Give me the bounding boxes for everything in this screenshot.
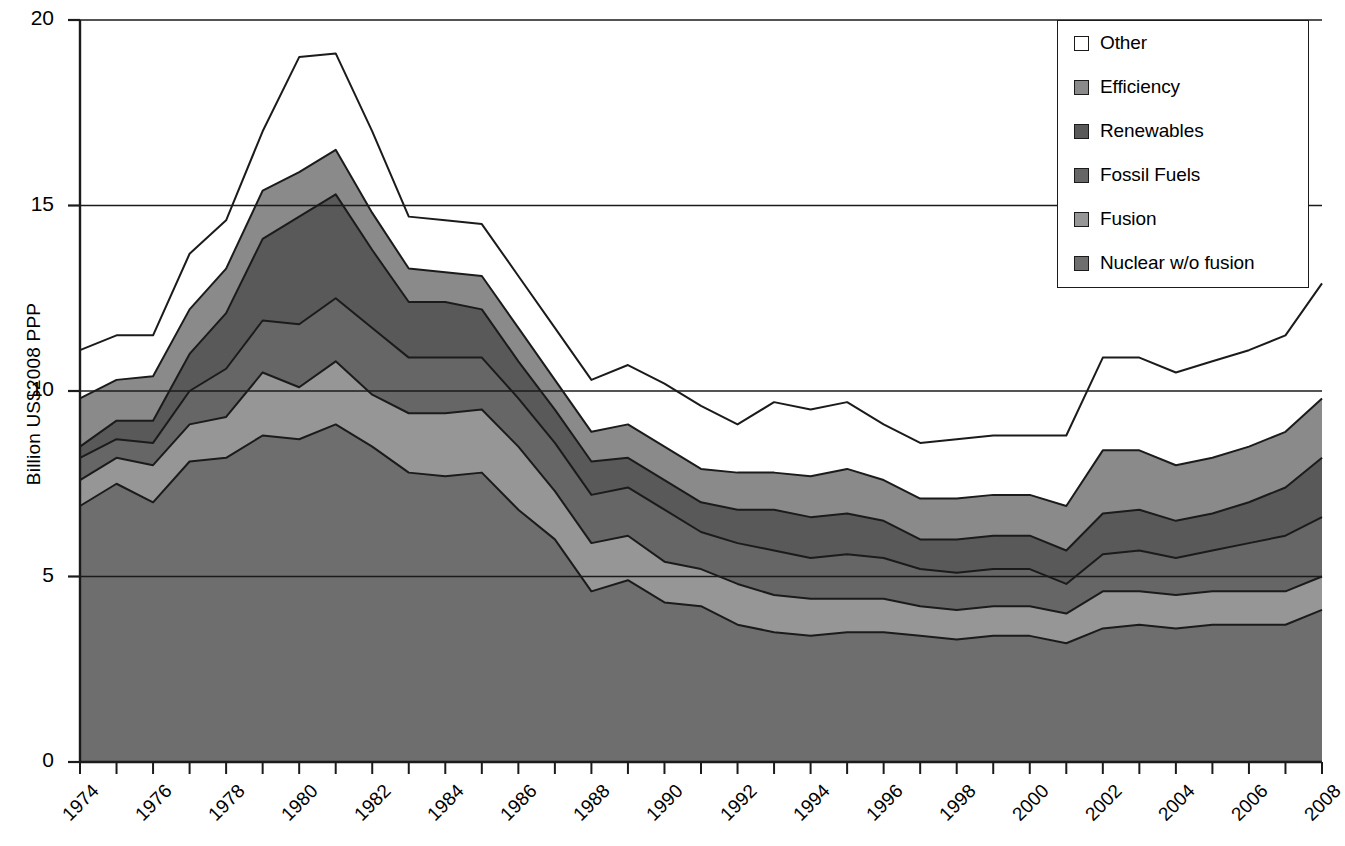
legend-swatch-icon bbox=[1074, 212, 1089, 227]
y-tick-label: 20 bbox=[8, 6, 54, 30]
legend-label: Efficiency bbox=[1100, 76, 1180, 98]
y-tick-label: 15 bbox=[8, 192, 54, 216]
legend-item: Renewables bbox=[1058, 109, 1308, 153]
y-tick-label: 5 bbox=[8, 563, 54, 587]
y-tick-label: 0 bbox=[8, 748, 54, 772]
legend-swatch-icon bbox=[1074, 36, 1089, 51]
legend-item: Nuclear w/o fusion bbox=[1058, 241, 1308, 285]
legend-label: Fossil Fuels bbox=[1100, 164, 1200, 186]
legend-item: Efficiency bbox=[1058, 65, 1308, 109]
legend-label: Renewables bbox=[1100, 120, 1204, 142]
legend-label: Nuclear w/o fusion bbox=[1100, 252, 1255, 274]
legend-swatch-icon bbox=[1074, 168, 1089, 183]
chart-legend: OtherEfficiencyRenewablesFossil FuelsFus… bbox=[1057, 20, 1309, 288]
legend-swatch-icon bbox=[1074, 124, 1089, 139]
legend-items: OtherEfficiencyRenewablesFossil FuelsFus… bbox=[1058, 21, 1308, 285]
legend-label: Fusion bbox=[1100, 208, 1156, 230]
legend-swatch-icon bbox=[1074, 256, 1089, 271]
legend-item: Other bbox=[1058, 21, 1308, 65]
legend-label: Other bbox=[1100, 32, 1147, 54]
legend-swatch-icon bbox=[1074, 80, 1089, 95]
legend-item: Fossil Fuels bbox=[1058, 153, 1308, 197]
y-tick-label: 10 bbox=[8, 377, 54, 401]
legend-item: Fusion bbox=[1058, 197, 1308, 241]
